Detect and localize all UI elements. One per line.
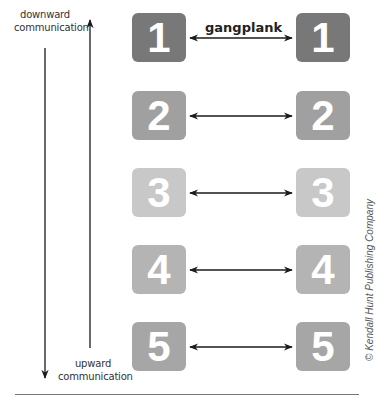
level-3-left-box: 3 — [132, 168, 186, 217]
level-4-left-box: 4 — [132, 245, 186, 294]
level-5-left-box: 5 — [132, 322, 186, 371]
level-2-right-box: 2 — [296, 91, 350, 140]
level-3-right-box: 3 — [296, 168, 350, 217]
upward-communication-label: upward communication — [58, 357, 128, 383]
gangplank-label: gangplank — [205, 20, 282, 35]
bottom-divider — [15, 394, 359, 395]
level-2-left-box: 2 — [132, 91, 186, 140]
level-4-right-box: 4 — [296, 245, 350, 294]
copyright-text: © Kendall Hunt Publishing Company — [364, 185, 375, 375]
level-1-right-box: 1 — [296, 13, 350, 62]
downward-communication-label: downward communication — [14, 8, 76, 34]
level-5-right-box: 5 — [296, 322, 350, 371]
level-1-left-box: 1 — [132, 13, 186, 62]
